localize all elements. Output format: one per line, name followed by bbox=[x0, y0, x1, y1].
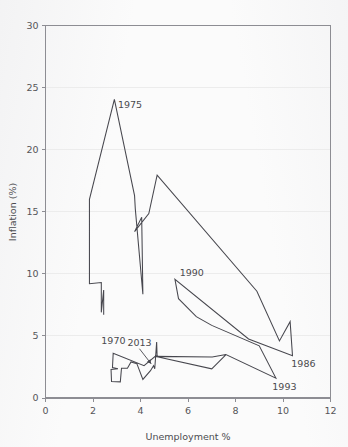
annotation-1970: 1970 bbox=[101, 335, 125, 346]
y-axis-title: Inflation (%) bbox=[7, 183, 18, 241]
y-tick-label-20: 20 bbox=[26, 144, 38, 155]
y-tick-label-30: 30 bbox=[26, 20, 38, 31]
y-tick-label-15: 15 bbox=[26, 206, 38, 217]
y-tick-label-0: 0 bbox=[32, 392, 38, 403]
y-tick-label-25: 25 bbox=[26, 82, 38, 93]
x-tick-label-2: 2 bbox=[90, 405, 96, 416]
x-axis-ticks: 024681012 bbox=[42, 398, 336, 416]
annotation-1993: 1993 bbox=[272, 381, 296, 392]
y-tick-label-5: 5 bbox=[32, 330, 38, 341]
y-tick-label-10: 10 bbox=[26, 268, 38, 279]
annotation-1990: 1990 bbox=[180, 267, 204, 278]
x-axis-title: Unemployment % bbox=[145, 431, 230, 442]
x-tick-label-10: 10 bbox=[277, 405, 289, 416]
x-tick-label-12: 12 bbox=[324, 405, 336, 416]
annotation-1975: 1975 bbox=[118, 99, 142, 110]
series-annotations: 197519702013199019861993 bbox=[101, 99, 315, 392]
x-tick-label-4: 4 bbox=[137, 405, 143, 416]
annotation-2013: 2013 bbox=[127, 337, 151, 348]
phillips-curve-chart: 051015202530 024681012 19751970201319901… bbox=[0, 0, 348, 447]
x-tick-label-8: 8 bbox=[232, 405, 238, 416]
chart-page: 051015202530 024681012 19751970201319901… bbox=[0, 0, 348, 447]
x-tick-label-0: 0 bbox=[42, 405, 48, 416]
annotation-1986: 1986 bbox=[291, 358, 315, 369]
y-axis-ticks: 051015202530 bbox=[26, 20, 45, 404]
x-tick-label-6: 6 bbox=[185, 405, 191, 416]
